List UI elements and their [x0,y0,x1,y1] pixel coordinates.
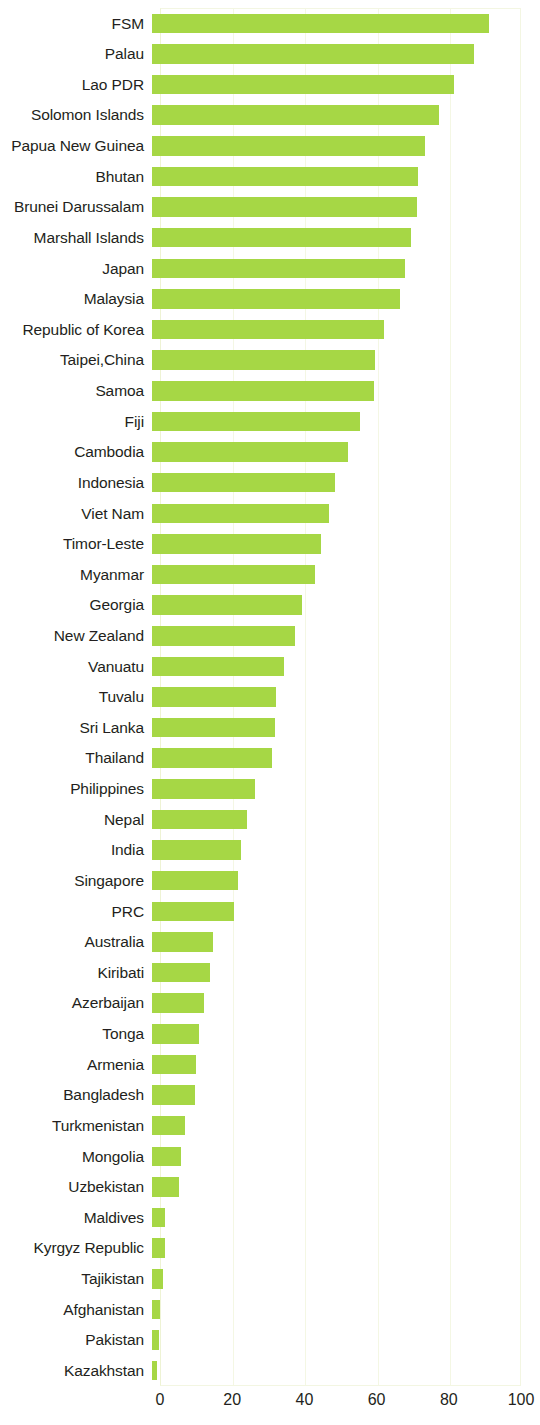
category-label: Palau [0,46,152,62]
bar-row: Kyrgyz Republic [0,1238,540,1258]
category-label: Vanuatu [0,659,152,675]
bar-track [152,197,513,217]
bar [152,473,335,493]
category-label: Thailand [0,750,152,766]
category-label: Singapore [0,873,152,889]
bar [152,565,315,585]
bar [152,1330,159,1350]
bar-row: Myanmar [0,565,540,585]
bar-track [152,14,513,34]
bar [152,902,234,922]
bar-row: Fiji [0,412,540,432]
bar-row: Pakistan [0,1330,540,1350]
bar-track [152,1116,513,1136]
category-label: Solomon Islands [0,107,152,123]
bar [152,1269,163,1289]
bar-row: Bangladesh [0,1085,540,1105]
bar-row: Republic of Korea [0,320,540,340]
category-label: Uzbekistan [0,1179,152,1195]
bar-track [152,595,513,615]
bar [152,350,375,370]
bar-row: Nepal [0,810,540,830]
bar [152,504,329,524]
bar [152,810,247,830]
bar-track [152,748,513,768]
category-label: Marshall Islands [0,230,152,246]
bar-track [152,1208,513,1228]
bar [152,412,360,432]
category-label: Myanmar [0,567,152,583]
bar [152,228,411,248]
bar [152,1055,196,1075]
category-label: PRC [0,904,152,920]
bar-track [152,810,513,830]
x-axis-tick-label: 0 [156,1392,165,1408]
category-label: Papua New Guinea [0,138,152,154]
bar-row: Palau [0,44,540,64]
bar [152,105,439,125]
bar-track [152,1361,513,1381]
x-axis-tick-label: 40 [295,1392,313,1408]
category-label: Japan [0,261,152,277]
bar-track [152,932,513,952]
bar-track [152,534,513,554]
bar [152,963,210,983]
x-axis-tick-label: 100 [508,1392,535,1408]
bar [152,442,348,462]
bar-track [152,963,513,983]
category-label: India [0,842,152,858]
bar-row: Sri Lanka [0,718,540,738]
bar [152,840,241,860]
bar [152,1361,157,1381]
bar-track [152,687,513,707]
bar-row: Japan [0,259,540,279]
category-label: Bangladesh [0,1087,152,1103]
bar-rows: FSMPalauLao PDRSolomon IslandsPapua New … [0,8,540,1386]
bar-track [152,44,513,64]
category-label: Viet Nam [0,506,152,522]
bar-row: Australia [0,932,540,952]
x-axis-tick-label: 80 [440,1392,458,1408]
bar-row: Afghanistan [0,1300,540,1320]
bar [152,1238,165,1258]
category-label: Republic of Korea [0,322,152,338]
category-label: Australia [0,934,152,950]
bar-row: Cambodia [0,442,540,462]
bar-track [152,320,513,340]
bar [152,534,321,554]
category-label: Taipei,China [0,352,152,368]
bar-row: Singapore [0,871,540,891]
bar-track [152,136,513,156]
bar-row: Marshall Islands [0,228,540,248]
bar-row: Taipei,China [0,350,540,370]
bar-chart: FSMPalauLao PDRSolomon IslandsPapua New … [0,0,540,1425]
bar [152,748,272,768]
category-label: Kazakhstan [0,1363,152,1379]
bar-row: Thailand [0,748,540,768]
bar [152,14,489,34]
category-label: Azerbaijan [0,995,152,1011]
bar-track [152,1024,513,1044]
bar-row: Bhutan [0,167,540,187]
bar [152,1208,165,1228]
bar-row: Vanuatu [0,657,540,677]
bar [152,871,238,891]
bar-row: Kazakhstan [0,1361,540,1381]
bar-row: Indonesia [0,473,540,493]
category-label: Fiji [0,414,152,430]
category-label: Nepal [0,812,152,828]
bar-row: Timor-Leste [0,534,540,554]
bar-row: Tajikistan [0,1269,540,1289]
bar-row: Brunei Darussalam [0,197,540,217]
bar-track [152,1147,513,1167]
category-label: Tonga [0,1026,152,1042]
category-label: Malaysia [0,291,152,307]
bar-track [152,840,513,860]
bar [152,718,275,738]
bar-track [152,871,513,891]
bar [152,687,276,707]
bar-row: Tonga [0,1024,540,1044]
bar-track [152,381,513,401]
category-label: Lao PDR [0,77,152,93]
bar-row: Lao PDR [0,75,540,95]
